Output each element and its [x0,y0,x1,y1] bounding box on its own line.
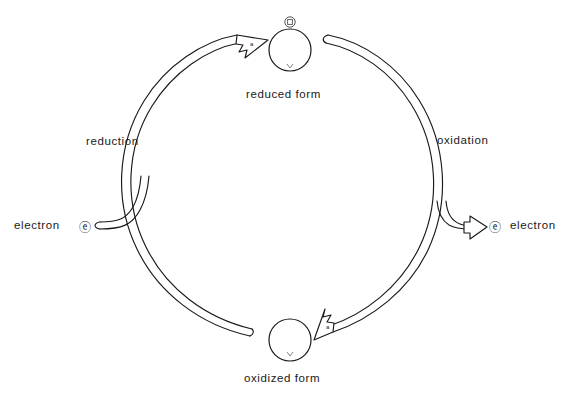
label-electron-in: electron [14,219,60,231]
reduction-arc-tail-cap [250,329,253,336]
label-reduced-form: reduced form [246,88,321,100]
reduced-form-circle[interactable] [269,29,311,71]
electron-out-symbol-icon: ⓔ [489,218,501,235]
electron-out-branch [437,201,487,239]
reduction-arc: a [122,35,268,336]
label-electron-out: electron [510,219,556,231]
oxidation-arc-inner-edge [328,35,443,332]
oxidation-arc-outer-edge [326,43,434,326]
label-reduction: reduction [86,135,139,147]
node-oxidized-form[interactable] [269,319,311,361]
reduced-form-electron-badge-ring [285,17,295,27]
redox-cycle-diagram: a a [0,0,571,401]
oxidation-arrowhead [314,309,334,340]
oxidation-arc: a [314,35,443,340]
oxidation-arc-head-cap [323,35,328,43]
node-reduced-form[interactable] [269,17,311,71]
oxidized-form-circle[interactable] [269,319,311,361]
electron-out-arrowhead [464,216,487,239]
electron-in-branch-cap [95,222,100,229]
label-oxidized-form: oxidized form [244,372,320,384]
electron-in-symbol-icon: ⓔ [79,218,91,235]
label-oxidation: oxidation [437,134,488,146]
diagram-canvas: a a [0,0,571,401]
reduction-arc-outer-edge [131,43,252,329]
electron-in-branch-lower-edge [100,176,149,229]
reduction-arc-inner-edge [122,35,250,336]
